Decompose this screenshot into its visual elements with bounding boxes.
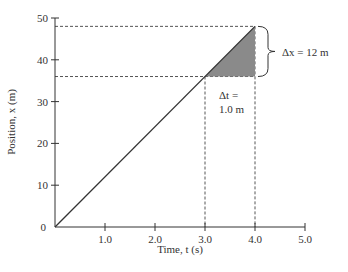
y-ticks: 01020304050 [37, 12, 59, 233]
x-tick-label: 5.0 [298, 233, 312, 245]
delta-t-label-line1: Δt = [219, 89, 238, 101]
delta-x-brace [258, 26, 275, 76]
position-line [55, 26, 255, 227]
y-tick-label: 30 [37, 96, 49, 108]
y-tick-label: 0 [41, 221, 47, 233]
delta-x-label: Δx = 12 m [282, 46, 329, 58]
x-ticks: 1.02.03.04.05.0 [98, 223, 312, 245]
position-time-chart: 01020304050 1.02.03.04.05.0 Time, t (s) … [0, 0, 348, 272]
y-tick-label: 10 [37, 179, 49, 191]
x-tick-label: 4.0 [248, 233, 262, 245]
y-axis-title: Position, x (m) [5, 89, 18, 155]
y-tick-label: 20 [37, 137, 49, 149]
y-tick-label: 50 [37, 12, 49, 24]
axes [55, 18, 305, 227]
x-axis-title: Time, t (s) [157, 243, 203, 256]
y-tick-label: 40 [37, 54, 49, 66]
delta-t-label-line2: 1.0 m [219, 103, 245, 115]
x-tick-label: 1.0 [98, 233, 112, 245]
